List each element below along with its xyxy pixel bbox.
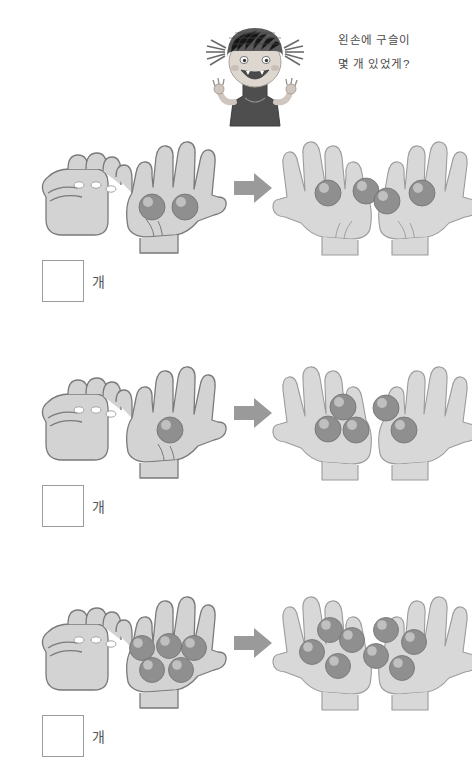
girl-left-cheek xyxy=(231,65,239,71)
problem-2-hands-before xyxy=(28,360,228,480)
marble xyxy=(364,644,389,669)
problem-row-2: 개 xyxy=(0,355,472,565)
answer-box-2[interactable] xyxy=(42,485,84,527)
marble xyxy=(157,634,182,659)
answer-box-3[interactable] xyxy=(42,715,84,757)
arrow-right-3 xyxy=(230,625,276,661)
marble xyxy=(300,640,325,665)
marble xyxy=(373,395,399,421)
girl-right-arm xyxy=(276,92,290,102)
marble xyxy=(157,417,183,443)
problem-2-hands-after xyxy=(282,360,468,480)
marble xyxy=(169,658,194,683)
marble xyxy=(402,630,427,655)
answer-box-1[interactable] xyxy=(42,260,84,302)
fist-hand-2 xyxy=(42,378,132,460)
marble xyxy=(390,656,415,681)
girl-left-arm xyxy=(220,92,234,102)
arrow-right-2 xyxy=(230,395,276,431)
marble xyxy=(130,636,155,661)
marble xyxy=(343,417,369,443)
question-line-1: 왼손에 구슬이 xyxy=(338,28,458,52)
marble xyxy=(315,416,341,442)
marble xyxy=(315,180,341,206)
answer-unit-2: 개 xyxy=(92,496,105,516)
marble xyxy=(172,194,198,220)
marble xyxy=(374,618,399,643)
question-line-2: 몇 개 있었게? xyxy=(338,52,458,76)
arrow-right-1 xyxy=(230,170,276,206)
worksheet-header: 왼손에 구슬이 몇 개 있었게? xyxy=(0,0,472,130)
marble xyxy=(409,180,435,206)
problem-3-hands-before xyxy=(28,590,228,710)
marble xyxy=(374,188,400,214)
marbles-open-hand-2 xyxy=(157,417,183,443)
marble xyxy=(391,417,417,443)
problem-row-1: 개 xyxy=(0,130,472,340)
arrow-right-icon xyxy=(234,173,272,203)
marble xyxy=(318,618,343,643)
question-text: 왼손에 구슬이 몇 개 있었게? xyxy=(338,28,458,76)
marble xyxy=(340,628,365,653)
marble xyxy=(182,636,207,661)
cartoon-girl-illustration xyxy=(205,18,305,126)
answer-unit-1: 개 xyxy=(92,271,105,291)
answer-unit-3: 개 xyxy=(92,726,105,746)
worksheet-page: 왼손에 구슬이 몇 개 있었게? xyxy=(0,0,472,772)
marble xyxy=(326,654,351,679)
problem-row-3: 개 xyxy=(0,585,472,772)
marble xyxy=(139,194,165,220)
answer-area-2: 개 xyxy=(42,485,105,527)
marble xyxy=(330,394,356,420)
girl-right-cheek xyxy=(271,65,279,71)
answer-area-3: 개 xyxy=(42,715,105,757)
marble xyxy=(140,658,165,683)
answer-area-1: 개 xyxy=(42,260,105,302)
problem-1-hands-before xyxy=(28,135,228,255)
problem-1-hands-after xyxy=(282,135,468,255)
arrow-right-icon xyxy=(234,628,272,658)
fist-hand-3 xyxy=(42,608,132,690)
problem-3-hands-after xyxy=(282,590,468,710)
arrow-right-icon xyxy=(234,398,272,428)
combined-right-hand-3 xyxy=(379,597,472,710)
fist-hand-1 xyxy=(42,153,132,235)
